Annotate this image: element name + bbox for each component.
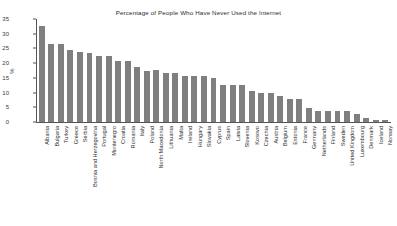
x-tick-label: Montenegro [111,126,117,156]
x-tick-label: Czechia [263,126,269,146]
x-tick-label: France [302,126,308,143]
x-tick-label: Iceland [378,126,384,144]
x-tick-label: Malta [178,126,184,140]
x-tick-label: United Kingdom [349,126,355,166]
y-tick-label: 15 [2,75,9,81]
y-tick-label: 25 [2,45,9,51]
x-tick-label: Hungary [197,126,203,147]
y-tick-label: 0 [6,119,9,125]
x-tick-label: Finland [330,126,336,144]
x-tick-label: Serbia [82,126,88,142]
x-tick-label: Latvia [235,126,241,141]
x-tick-label: Sweden [340,126,346,146]
x-tick-label: Netherlands [321,126,327,156]
x-tick-label: Cyprus [216,126,222,144]
x-tick-label: Turkey [63,126,69,143]
x-tick-label: Spain [225,126,231,140]
x-tick-label: Ireland [187,126,193,143]
x-tick-label: Greece [73,126,79,144]
x-tick-label: Slovakia [206,126,212,147]
y-tick-label: 30 [2,31,9,37]
x-tick-label: Bulgaria [54,126,60,147]
x-tick-label: Kosovo [254,126,260,145]
x-tick-label: Romania [130,126,136,148]
x-tick-label: Austria [273,126,279,143]
y-tick-label: 35 [2,16,9,22]
x-tick-label: Poland [149,126,155,143]
x-tick-label: Bosnia and Herzegovina [92,126,98,187]
y-tick-label: 5 [6,104,9,110]
x-tick-label: Luxembourg [359,126,365,157]
x-tick-label: North Macedonia [158,126,164,169]
x-tick-label: Norway [387,126,393,145]
x-tick-label: Croatia [120,126,126,144]
y-tick-label: 10 [2,90,9,96]
x-tick-label: Germany [311,126,317,149]
y-axis-ticks: 05101520253035 [0,0,37,226]
x-tick-label: Lithuania [168,126,174,149]
x-tick-label: Slovenia [244,126,250,147]
x-tick-label: Italy [139,126,145,136]
x-tick-label: Portugal [101,126,107,147]
x-tick-label: Denmark [368,126,374,149]
y-tick-label: 20 [2,60,9,66]
x-tick-label: Albania [44,126,50,145]
x-axis-labels: AlbaniaBulgariaTurkeyGreeceSerbiaBosnia … [37,0,390,226]
x-tick-label: Estonia [292,126,298,145]
chart-figure: Percentage of People Who Have Never Used… [0,0,397,226]
x-tick-label: Belgium [282,126,288,146]
